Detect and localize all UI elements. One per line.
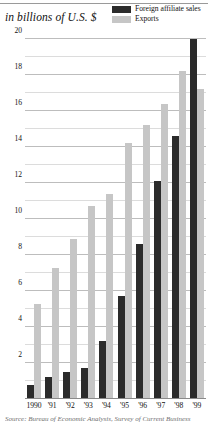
- y-tick-label-20: 20: [14, 26, 22, 35]
- x-tick-label-97: '97: [152, 401, 170, 413]
- bar-exports-95: [125, 143, 132, 399]
- legend-swatch-exports: [112, 16, 131, 23]
- x-tick-label-1990: 1990: [25, 401, 43, 413]
- bar-foreign-affiliate-sales-93: [81, 368, 88, 399]
- x-tick-label-99: '99: [188, 401, 206, 413]
- bar-exports-96: [143, 125, 150, 399]
- chart-legend: Foreign affiliate sales Exports: [112, 5, 201, 23]
- y-tick-label-16: 16: [14, 98, 22, 107]
- x-axis-tick-labels: 1990'91'92'93'94'95'96'97'98'99: [25, 401, 206, 413]
- x-tick-label-94: '94: [97, 401, 115, 413]
- bar-group-99: [188, 39, 206, 399]
- bar-group-91: [43, 39, 61, 399]
- source-note: Source: Bureau of Economic Analysis, Sur…: [5, 415, 191, 423]
- bar-exports-91: [52, 268, 59, 399]
- bar-groups: [25, 39, 206, 399]
- plot-area: 2018161412108642: [25, 39, 206, 399]
- x-tick-label-91: '91: [43, 401, 61, 413]
- bar-foreign-affiliate-sales-96: [136, 244, 143, 399]
- bar-group-95: [115, 39, 133, 399]
- bar-group-97: [152, 39, 170, 399]
- bar-foreign-affiliate-sales-95: [118, 296, 125, 399]
- bar-group-94: [97, 39, 115, 399]
- y-tick-label-10: 10: [14, 206, 22, 215]
- legend-item-exports: Exports: [112, 15, 201, 23]
- y-tick-label-8: 8: [18, 242, 22, 251]
- bar-exports-94: [106, 194, 113, 399]
- x-tick-label-95: '95: [115, 401, 133, 413]
- bar-foreign-affiliate-sales-91: [45, 377, 52, 399]
- x-axis-baseline: [25, 398, 206, 399]
- y-tick-label-14: 14: [14, 134, 22, 143]
- x-tick-label-98: '98: [170, 401, 188, 413]
- legend-item-foreign-affiliate-sales: Foreign affiliate sales: [112, 5, 201, 13]
- bar-group-96: [134, 39, 152, 399]
- y-tick-label-18: 18: [14, 62, 22, 71]
- bar-group-93: [79, 39, 97, 399]
- bar-exports-97: [161, 104, 168, 399]
- y-tick-label-6: 6: [18, 278, 22, 287]
- bar-foreign-affiliate-sales-98: [172, 136, 179, 399]
- bar-exports-1990: [34, 304, 41, 399]
- y-tick-label-12: 12: [14, 170, 22, 179]
- bar-group-98: [170, 39, 188, 399]
- bar-foreign-affiliate-sales-1990: [27, 385, 34, 399]
- legend-label-foreign-affiliate-sales: Foreign affiliate sales: [135, 5, 201, 13]
- legend-swatch-foreign-affiliate-sales: [112, 6, 131, 13]
- bar-foreign-affiliate-sales-92: [63, 372, 70, 399]
- chart-figure: in billions of U.S. $ Foreign affiliate …: [0, 0, 208, 424]
- bar-exports-98: [179, 71, 186, 399]
- x-tick-label-92: '92: [61, 401, 79, 413]
- bar-exports-99: [197, 89, 204, 399]
- bar-foreign-affiliate-sales-94: [99, 341, 106, 399]
- bar-exports-93: [88, 206, 95, 399]
- bar-foreign-affiliate-sales-99: [190, 39, 197, 399]
- y-tick-label-2: 2: [18, 350, 22, 359]
- chart-axis-title: in billions of U.S. $: [5, 11, 97, 23]
- legend-label-exports: Exports: [135, 15, 159, 23]
- x-tick-label-96: '96: [134, 401, 152, 413]
- x-tick-label-93: '93: [79, 401, 97, 413]
- bar-foreign-affiliate-sales-97: [154, 181, 161, 399]
- bar-group-1990: [25, 39, 43, 399]
- y-tick-label-4: 4: [18, 314, 22, 323]
- bar-exports-92: [70, 239, 77, 399]
- bar-group-92: [61, 39, 79, 399]
